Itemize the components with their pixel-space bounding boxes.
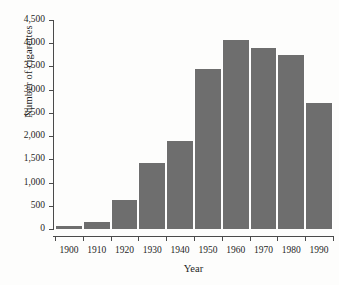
bar (277, 55, 305, 229)
bar (250, 48, 278, 229)
bar (166, 141, 194, 229)
bar-chart-figure: Number of cigarettes 05001,0001,5002,000… (0, 0, 339, 285)
bar (194, 69, 222, 229)
x-axis-title: Year (53, 263, 334, 274)
bar (83, 222, 111, 229)
plot-area (0, 0, 339, 285)
bar (222, 40, 250, 229)
bar (138, 163, 166, 229)
bar (55, 226, 83, 229)
bar (305, 103, 333, 229)
bar (111, 200, 139, 229)
